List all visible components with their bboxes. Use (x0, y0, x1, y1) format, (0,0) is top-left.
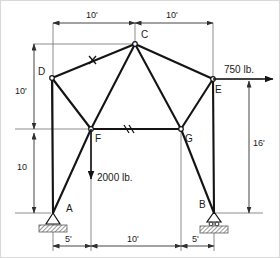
dim-bottom-right: 5' (181, 234, 214, 246)
joint-label-G: G (185, 133, 193, 144)
joint-d-marker (50, 76, 55, 81)
roller-b-right (215, 222, 219, 226)
load-750lb: 750 lb. (213, 64, 273, 79)
joint-g-marker (179, 127, 184, 132)
dim-bottom-left-label: 5' (65, 234, 72, 244)
dim-left-lower: 10 (17, 133, 34, 213)
member-E-B (213, 79, 214, 213)
member-G-E (181, 79, 213, 129)
joint-label-E: E (215, 84, 222, 95)
dim-top-right: 10' (135, 10, 213, 23)
dim-right-label: 16' (253, 138, 265, 148)
truss-members (52, 44, 214, 213)
load-2000-label: 2000 lb. (97, 172, 133, 183)
dim-top-left-label: 10' (86, 10, 98, 20)
dim-bottom-mid-label: 10' (127, 234, 139, 244)
load-750-label: 750 lb. (224, 64, 254, 75)
dim-right: 16' (249, 81, 265, 213)
dim-left-upper: 10' (15, 44, 34, 129)
ground-hatch-b (200, 226, 228, 233)
ground-hatch-a (39, 225, 67, 232)
joint-c-marker (133, 42, 138, 47)
dim-bottom-mid: 10' (91, 234, 181, 246)
truss-diagram: C D E F G A B 750 lb. 2000 lb. 10' 10' 1… (1, 1, 280, 258)
member-C-E (135, 44, 213, 79)
dim-bottom-left: 5' (53, 234, 91, 246)
member-D-F (52, 78, 91, 129)
member-A-D (52, 78, 53, 213)
member-F-C (91, 44, 135, 129)
dim-top-left: 10' (53, 10, 135, 23)
dim-left-lower-label: 10 (17, 162, 27, 172)
joint-label-C: C (141, 29, 148, 40)
joint-markers (50, 42, 216, 132)
joint-label-B: B (199, 199, 206, 210)
dim-top-right-label: 10' (166, 10, 178, 20)
support-b (200, 212, 228, 233)
member-A-F (53, 129, 91, 213)
joint-label-F: F (95, 133, 101, 144)
support-a (39, 213, 67, 232)
member-C-G (135, 44, 181, 129)
dim-left-upper-label: 10' (15, 86, 27, 96)
joint-label-D: D (38, 66, 45, 77)
joint-label-A: A (66, 203, 73, 214)
roller-b-left (209, 222, 213, 226)
diagram-canvas: C D E F G A B 750 lb. 2000 lb. 10' 10' 1… (0, 0, 280, 258)
dim-bottom-right-label: 5' (192, 234, 199, 244)
